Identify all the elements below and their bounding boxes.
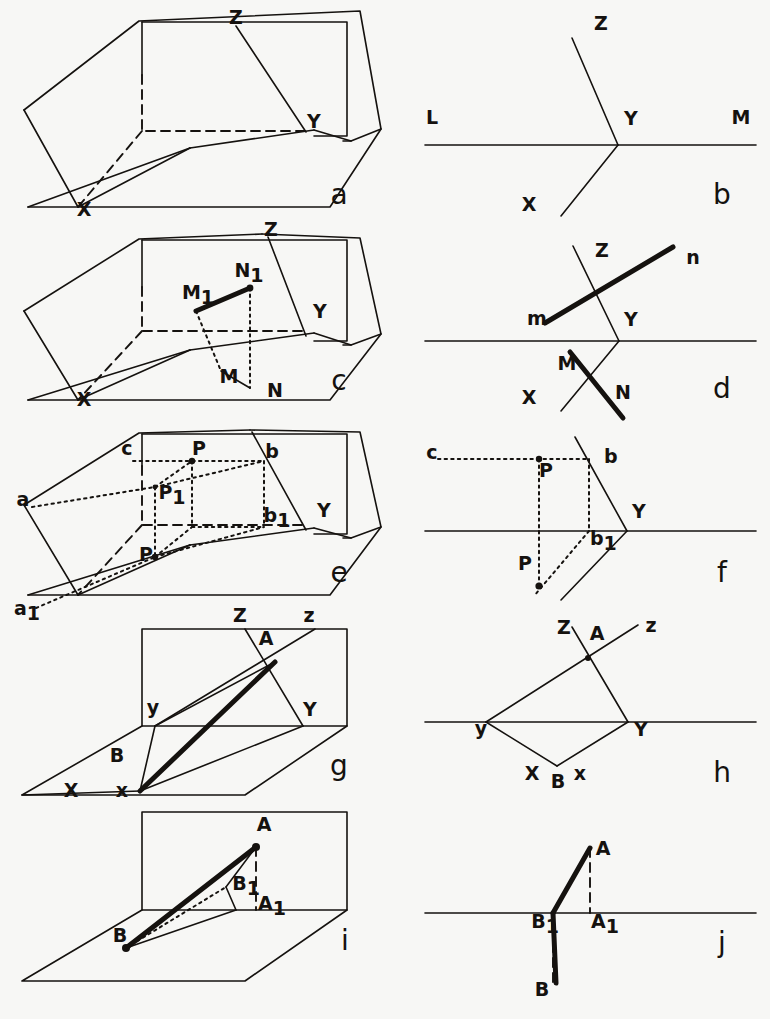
figure-j-label-B: B xyxy=(535,978,549,1000)
figure-h-label-y: y xyxy=(475,717,488,739)
figure-e: Yaa1bb1cPP1Pe xyxy=(14,430,381,624)
figure-f-label-b1: b1 xyxy=(590,527,617,554)
figure-e-edge xyxy=(78,545,190,595)
figure-j: AB1A1Bj xyxy=(425,837,756,1000)
figure-b-label-Z: Z xyxy=(594,12,608,34)
figure-c-label-Y: Y xyxy=(312,300,327,322)
figure-e-construction-line xyxy=(36,557,155,608)
figure-f-label-P: P xyxy=(539,459,553,481)
figure-c-label-M1: M1 xyxy=(182,281,214,308)
figure-f: cbYb1PPf xyxy=(425,437,756,600)
figure-j-emphasis-line xyxy=(553,848,590,913)
figure-a-hidden-edge xyxy=(142,75,306,131)
figure-h-label-Z: Z xyxy=(557,616,571,638)
figure-h-label-B: B xyxy=(551,770,565,792)
figure-g-label-X: X xyxy=(64,779,79,801)
figure-c-label-Z: Z xyxy=(264,218,278,240)
figure-c-label-X: X xyxy=(77,388,92,410)
figure-d-label-M: M xyxy=(558,352,577,374)
figure-h-label-z: z xyxy=(645,614,656,636)
figure-f-label-b: b xyxy=(604,445,618,467)
figure-i: AB1A1Bi xyxy=(22,812,349,981)
figure-i-label-B: B xyxy=(113,924,127,946)
figure-g-label-Y: Y xyxy=(302,698,317,720)
figure-caption-c: c xyxy=(331,364,346,397)
figure-f-label-c: c xyxy=(426,441,437,463)
figure-i-label-B1: B1 xyxy=(232,872,260,899)
figure-e-label-b1: b1 xyxy=(264,504,291,531)
figure-f-label-Y: Y xyxy=(631,500,646,522)
figure-j-label-B1: B1 xyxy=(531,910,559,937)
figure-i-label-A: A xyxy=(257,813,272,835)
figure-c-label-N1: N1 xyxy=(234,259,263,286)
figure-h-point-marker xyxy=(585,655,591,661)
figure-g-edge xyxy=(245,629,303,726)
figure-e-construction-line xyxy=(32,487,155,507)
figure-c-label-M: M xyxy=(220,365,239,387)
figure-b-edge xyxy=(572,38,618,145)
figure-h-edge xyxy=(486,722,557,766)
figure-caption-a: a xyxy=(330,178,347,211)
plate-canvas: ZYXaZYXLMbZYXMNM1N1cZYXmnMNdYaa1bb1cPP1P… xyxy=(0,0,770,1019)
figure-b-edge xyxy=(561,145,618,216)
figure-g-edge xyxy=(140,726,303,791)
figure-a-label-X: X xyxy=(77,198,92,220)
figure-e-label-a: a xyxy=(17,488,30,510)
figure-b-label-X: X xyxy=(522,193,537,215)
figure-h-edge xyxy=(486,625,638,722)
figure-d-label-N: N xyxy=(615,381,631,403)
figure-c-label-N: N xyxy=(267,379,283,401)
figure-h: ZAzYyXBxh xyxy=(425,614,756,792)
figure-caption-j: j xyxy=(717,926,726,959)
figure-a-edge xyxy=(236,26,306,132)
figure-b-label-Y: Y xyxy=(623,107,638,129)
figure-d-label-Y: Y xyxy=(623,308,638,330)
figure-g-label-Z: Z xyxy=(233,604,247,626)
figure-caption-h: h xyxy=(713,756,731,789)
figure-h-label-x: x xyxy=(574,762,586,784)
figure-i-edge xyxy=(142,812,347,910)
figure-f-edge xyxy=(575,437,627,531)
figure-c-edge xyxy=(314,333,351,345)
figure-d-label-X: X xyxy=(522,386,537,408)
figure-i-emphasis-line xyxy=(126,847,256,948)
figure-f-point-marker xyxy=(535,582,542,589)
figure-e-label-Y: Y xyxy=(316,499,331,521)
figure-a: ZYXa xyxy=(24,6,381,220)
figure-e-label-P1: P1 xyxy=(158,481,185,508)
figure-g-label-x: x xyxy=(116,779,128,801)
figure-c-hidden-edge xyxy=(142,287,306,331)
figure-caption-b: b xyxy=(713,178,731,211)
figure-a-label-Y: Y xyxy=(306,110,321,132)
figure-h-label-X: X xyxy=(525,762,540,784)
figure-d-label-n: n xyxy=(686,246,700,268)
figure-g-label-A: A xyxy=(259,627,274,649)
figure-a-edge xyxy=(28,148,190,207)
figure-a-edge xyxy=(78,148,190,207)
figure-e-point-marker xyxy=(153,485,158,490)
figure-d-emphasis-line xyxy=(545,247,673,323)
figure-a-edge xyxy=(28,129,381,207)
figure-a-edge xyxy=(190,130,314,148)
figure-caption-g: g xyxy=(330,749,348,782)
figure-caption-i: i xyxy=(341,924,349,957)
figure-g-label-y: y xyxy=(147,696,160,718)
geometry-plate: ZYXaZYXLMbZYXMNM1N1cZYXmnMNdYaa1bb1cPP1P… xyxy=(0,0,770,1019)
figure-d: ZYXmnMNd xyxy=(425,239,756,418)
figure-e-label-a1: a1 xyxy=(14,597,40,624)
figure-caption-e: e xyxy=(330,556,347,589)
figure-caption-d: d xyxy=(713,372,731,405)
figure-a-edge xyxy=(24,11,381,141)
figure-h-label-Y: Y xyxy=(633,718,648,740)
figure-e-label-c: c xyxy=(121,437,132,459)
figure-e-label-P: P xyxy=(192,437,206,459)
figure-c-edge xyxy=(262,234,381,345)
figure-e-edge xyxy=(314,528,351,538)
figure-c: ZYXMNM1N1c xyxy=(24,218,381,410)
figure-h-label-A: A xyxy=(590,622,605,644)
figure-g-label-B: B xyxy=(110,744,124,766)
figure-e-label-b: b xyxy=(265,440,279,462)
figure-caption-f: f xyxy=(717,556,728,589)
figure-i-label-A1: A1 xyxy=(258,892,286,919)
figure-i-edge xyxy=(22,910,347,981)
